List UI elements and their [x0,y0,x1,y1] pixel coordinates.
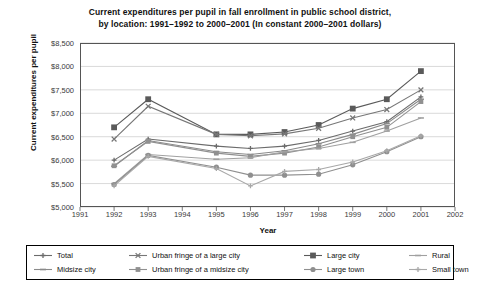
x-tick-label: 1993 [140,210,157,219]
series-line [114,97,421,160]
legend-item-rural[interactable]: Rural [408,251,480,260]
legend-marker-icon [33,251,53,260]
x-tick-label: 2000 [378,210,395,219]
x-tick-label: 1994 [174,210,191,219]
y-tick-label: $7,500 [30,85,74,94]
legend-item-total[interactable]: Total [33,251,128,260]
legend-marker-icon [128,251,148,260]
y-tick-label: $8,000 [30,62,74,71]
legend-item-small-town[interactable]: Small town [408,265,480,274]
x-tick-label: 1999 [344,210,361,219]
chart-figure: Current expenditures per pupil in fall e… [0,0,480,287]
data-point [248,184,253,189]
data-point [316,172,321,177]
series-rural [111,118,424,184]
legend-marker-icon [33,265,53,274]
data-point [214,144,219,149]
y-tick-label: $5,500 [30,179,74,188]
legend-item-urban-fringe-of-a-large-city[interactable]: Urban fringe of a large city [128,251,303,260]
legend-item-urban-fringe-of-a-midsize-city[interactable]: Urban fringe of a midsize city [128,265,303,274]
legend-label: Large town [327,265,364,274]
legend-label: Small town [432,265,469,274]
data-point [136,267,141,272]
data-point [146,104,151,109]
legend-marker-icon [408,265,428,274]
y-tick-label: $6,500 [30,132,74,141]
legend-label: Rural [432,251,450,260]
data-point [112,163,117,168]
data-point [282,169,287,174]
y-axis-ticks: $5,000$5,500$6,000$6,500$7,000$7,500$8,0… [28,0,74,287]
data-point [310,267,315,272]
y-tick-label: $6,000 [30,156,74,165]
legend-item-large-city[interactable]: Large city [303,251,408,260]
legend-marker-icon [128,265,148,274]
data-point [384,96,390,102]
data-point [146,139,151,144]
data-point [419,99,424,104]
x-axis-title: Year [80,226,456,235]
legend-item-midsize-city[interactable]: Midsize city [33,265,128,274]
data-point [111,124,117,130]
data-point [316,167,321,172]
legend-item-large-town[interactable]: Large town [303,265,408,274]
data-point [310,252,316,258]
legend-marker-icon [303,265,323,274]
data-point [112,137,117,142]
x-tick-label: 1998 [310,210,327,219]
data-point [416,267,421,272]
plot-frame [81,44,455,207]
x-tick-label: 1996 [242,210,259,219]
data-point [41,253,46,258]
data-point [248,146,253,151]
legend-marker-icon [408,251,428,260]
y-tick-label: $8,500 [30,39,74,48]
data-point [248,173,253,178]
legend-label: Urban fringe of a large city [152,251,240,260]
data-point [350,129,355,134]
x-tick-label: 2002 [447,210,464,219]
data-point [145,96,151,102]
plot-svg [80,43,455,213]
data-point [214,151,219,156]
x-tick-label: 1997 [276,210,293,219]
data-point [384,125,389,130]
x-tick-label: 2001 [413,210,430,219]
data-point [418,68,424,74]
legend-marker-icon [303,251,323,260]
x-tick-label: 1995 [208,210,225,219]
legend-label: Large city [327,251,360,260]
chart-legend: TotalUrban fringe of a large cityLarge c… [26,245,454,280]
legend-label: Midsize city [57,265,96,274]
plot-area [80,43,455,207]
y-tick-label: $5,000 [30,203,74,212]
legend-label: Urban fringe of a midsize city [152,265,249,274]
y-tick-label: $7,000 [30,109,74,118]
x-tick-label: 1992 [106,210,123,219]
series-line [114,90,421,139]
legend-label: Total [57,251,73,260]
data-point [316,138,321,143]
data-point [350,134,355,139]
x-tick-label: 1991 [72,210,89,219]
data-point [350,106,356,112]
data-point [282,144,287,149]
